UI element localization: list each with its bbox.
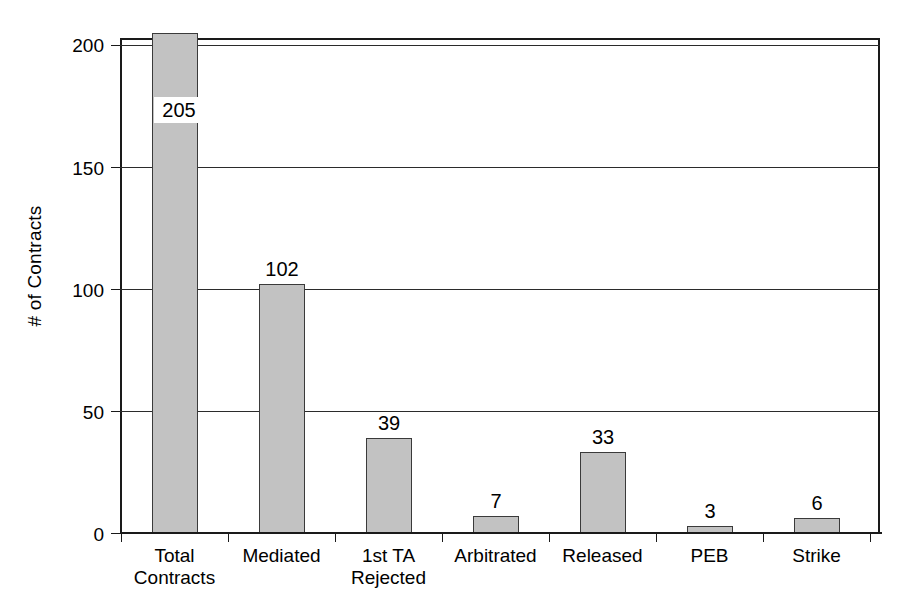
y-tick-mark-150 <box>111 167 120 168</box>
gridline-150 <box>120 167 880 168</box>
x-tick-3 <box>442 533 443 542</box>
gridline-50 <box>120 411 880 412</box>
x-label-released: Released <box>549 545 656 567</box>
y-tick-label-50: 50 <box>40 403 104 422</box>
x-axis-line <box>120 532 882 534</box>
x-label-total-contracts: Total Contracts <box>121 545 228 589</box>
x-tick-5 <box>656 533 657 542</box>
x-tick-4 <box>549 533 550 542</box>
x-tick-2 <box>335 533 336 542</box>
value-label-strike: 6 <box>787 493 847 513</box>
value-label-released: 33 <box>573 427 633 447</box>
bar-mediated[interactable] <box>259 284 305 533</box>
bar-1st-ta-rejected[interactable] <box>366 438 412 533</box>
value-label-1st-ta-rejected: 39 <box>359 413 419 433</box>
y-tick-label-100: 100 <box>40 281 104 300</box>
x-label-1st-ta-rejected: 1st TA Rejected <box>335 545 442 589</box>
bar-released[interactable] <box>580 452 626 533</box>
bar-strike[interactable] <box>794 518 840 533</box>
y-tick-mark-200 <box>111 45 120 46</box>
x-label-strike: Strike <box>763 545 870 567</box>
x-tick-7 <box>870 533 871 542</box>
x-label-peb: PEB <box>656 545 763 567</box>
y-tick-mark-0 <box>111 533 120 534</box>
gridline-100 <box>120 289 880 290</box>
y-tick-label-150: 150 <box>40 159 104 178</box>
value-label-mediated: 102 <box>252 259 312 279</box>
plot-area <box>120 38 880 533</box>
bar-arbitrated[interactable] <box>473 516 519 533</box>
value-label-total-contracts: 205 <box>154 97 204 123</box>
x-label-mediated: Mediated <box>228 545 335 567</box>
value-label-arbitrated: 7 <box>466 491 526 511</box>
y-tick-mark-100 <box>111 289 120 290</box>
gridline-200 <box>120 45 880 46</box>
y-axis-title: # of Contracts <box>24 176 46 356</box>
y-tick-label-200: 200 <box>40 36 104 55</box>
x-tick-0 <box>121 533 122 542</box>
y-tick-mark-50 <box>111 411 120 412</box>
value-label-peb: 3 <box>680 501 740 521</box>
bar-chart: # of Contracts 200 150 100 50 0 205 102 … <box>0 0 919 614</box>
x-tick-6 <box>763 533 764 542</box>
x-tick-1 <box>228 533 229 542</box>
x-label-arbitrated: Arbitrated <box>442 545 549 567</box>
y-tick-label-0: 0 <box>40 525 104 544</box>
